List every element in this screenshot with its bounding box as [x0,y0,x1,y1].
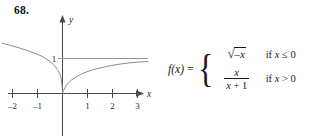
y-axis-label: y [68,15,74,25]
condition-prefix: if [266,73,275,84]
x-axis [8,90,144,96]
fraction-denominator: x + 1 [224,79,249,91]
case-row: √ –x if x ≤ 0 [219,47,296,62]
piecewise-formula: f(x) = { √ –x if x ≤ 0 [168,40,325,98]
x-tick-label-3: 3 [135,101,140,111]
case-expression-fraction: x x + 1 [219,67,255,91]
case-condition: if x ≤ 0 [266,49,296,60]
fraction-numerator: x [231,67,242,79]
condition-prefix: if [266,49,275,60]
curve-x-over-x-plus-1 [63,62,149,93]
figure-root: 68. y x –2 –1 [0,0,325,136]
x-tick-label-neg1: –1 [32,101,42,111]
condition-relation: ≤ 0 [279,49,295,60]
radical-sign-icon: √ [227,47,234,62]
function-name: f(x) [168,63,184,75]
radical-group: √ –x [227,47,246,62]
denominator-rest: + 1 [231,80,247,91]
graph-panel: y x –2 –1 1 2 3 1 [0,10,162,136]
fraction-group: x x + 1 [224,67,249,91]
y-tick-label-1: 1 [52,54,57,64]
cases-list: √ –x if x ≤ 0 x x + 1 [219,47,296,91]
x-tick-label-neg2: –2 [7,101,17,111]
case-expression-radical: √ –x [219,47,255,62]
case-condition: if x > 0 [266,73,296,84]
x-axis-label: x [146,89,152,99]
case-row: x x + 1 if x > 0 [219,67,296,91]
x-tick-label-1: 1 [85,101,90,111]
coordinate-plot: y x –2 –1 1 2 3 1 [0,10,162,136]
radicand: –x [234,47,246,62]
x-tick-label-2: 2 [110,101,115,111]
curve-sqrt-neg-x [2,43,63,93]
curly-brace-icon: { [198,53,213,86]
condition-relation: > 0 [279,73,295,84]
equals-sign: = [187,63,194,75]
